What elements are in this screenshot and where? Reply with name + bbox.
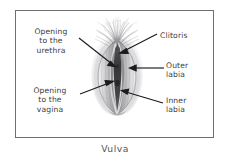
vaginal-opening bbox=[115, 80, 120, 86]
label-opening-to-the-vagina: Opening to the vagina bbox=[18, 86, 82, 114]
clitoris-region bbox=[115, 47, 120, 54]
label-outer-labia: Outer labia bbox=[166, 61, 214, 80]
label-clitoris: Clitoris bbox=[160, 31, 214, 40]
pubic-hair-wisps bbox=[97, 17, 137, 28]
arrow-outer-labia bbox=[129, 65, 164, 71]
diagram-canvas bbox=[0, 0, 230, 165]
figure-caption: Vulva bbox=[0, 143, 230, 154]
label-opening-to-the-urethra: Opening to the urethra bbox=[20, 27, 82, 55]
label-inner-labia: Inner labia bbox=[166, 96, 214, 115]
figure-vulva: Opening to the urethra Opening to the va… bbox=[0, 0, 230, 165]
